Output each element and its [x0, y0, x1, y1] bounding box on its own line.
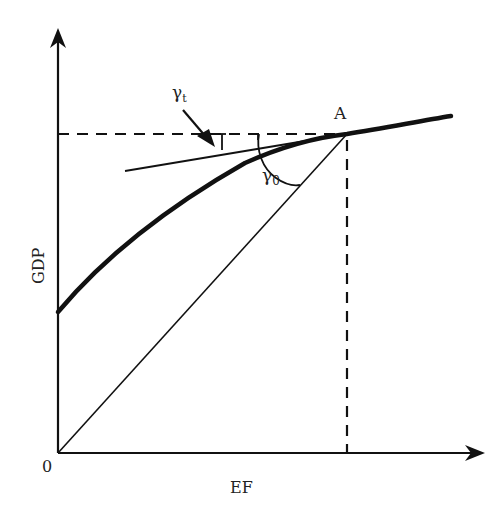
gdp-curve — [58, 116, 451, 312]
pointer-arrowhead-icon — [197, 129, 215, 147]
gamma-t-label: γt — [172, 82, 187, 105]
x-axis — [58, 445, 485, 461]
x-axis-label: EF — [230, 478, 253, 497]
angle-gamma-t-marker — [218, 134, 226, 150]
y-axis — [50, 28, 66, 453]
gamma-t-pointer-arrow — [183, 110, 215, 147]
origin-label: 0 — [42, 457, 52, 476]
point-a-label: A — [333, 103, 347, 123]
origin-ray — [58, 134, 347, 453]
y-axis-label: GDP — [29, 247, 48, 284]
gdp-ef-diagram: γt γ0 A 0 EF GDP — [0, 0, 500, 510]
gamma-0-label: γ0 — [262, 165, 280, 188]
